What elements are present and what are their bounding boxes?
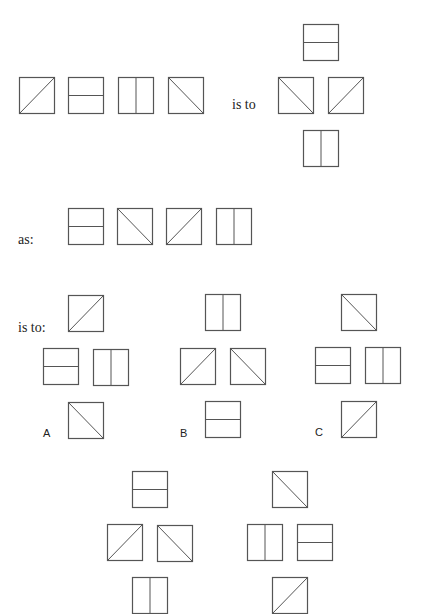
diag-up-square-icon — [180, 348, 216, 385]
option-c-tile-vertical — [365, 347, 401, 384]
horizontal-square-icon — [68, 208, 104, 245]
option-e-tile-horizontal — [297, 524, 333, 561]
option-c-tile-horizontal — [315, 347, 351, 384]
premise-cross-tile-horizontal — [303, 24, 339, 61]
premise-row-tile-vertical — [118, 77, 154, 114]
diag-up-square-icon — [19, 77, 55, 114]
option-b-tile-diag-down — [230, 348, 266, 385]
diag-up-square-icon — [272, 577, 308, 614]
option-b-tile-horizontal — [205, 401, 241, 438]
option-d-tile-diag-up — [107, 524, 143, 561]
horizontal-square-icon — [315, 347, 351, 384]
horizontal-square-icon — [68, 77, 104, 114]
premise-cross-tile-diag-up — [328, 77, 364, 114]
premise-row-tile-diag-up — [19, 77, 55, 114]
is-to-colon-label: is to: — [18, 321, 46, 335]
option-c-tile-diag-down — [341, 294, 377, 331]
horizontal-square-icon — [132, 471, 168, 508]
diag-up-square-icon — [107, 524, 143, 561]
vertical-square-icon — [205, 294, 241, 331]
option-b-label[interactable]: B — [180, 428, 187, 439]
option-d-tile-vertical — [132, 577, 168, 614]
option-d-tile-diag-down — [157, 525, 193, 562]
option-d-tile-horizontal — [132, 471, 168, 508]
option-e-tile-vertical — [247, 524, 283, 561]
as-label: as: — [18, 233, 34, 247]
horizontal-square-icon — [303, 24, 339, 61]
vertical-square-icon — [118, 77, 154, 114]
vertical-square-icon — [247, 524, 283, 561]
vertical-square-icon — [132, 577, 168, 614]
horizontal-square-icon — [43, 348, 79, 385]
query-row-tile-diag-down — [117, 208, 153, 245]
option-b-tile-diag-up — [180, 348, 216, 385]
vertical-square-icon — [365, 347, 401, 384]
diag-down-square-icon — [68, 402, 104, 439]
is-to-label: is to — [232, 98, 256, 112]
premise-row-tile-diag-down — [168, 77, 204, 114]
query-row-tile-diag-up — [166, 208, 202, 245]
diag-up-square-icon — [166, 208, 202, 245]
horizontal-square-icon — [297, 524, 333, 561]
option-c-tile-diag-up — [341, 401, 377, 438]
query-row-tile-horizontal — [68, 208, 104, 245]
diag-down-square-icon — [117, 208, 153, 245]
diag-up-square-icon — [68, 295, 104, 332]
diag-down-square-icon — [278, 77, 314, 114]
diag-up-square-icon — [328, 77, 364, 114]
option-a-label[interactable]: A — [43, 428, 50, 439]
option-e-tile-diag-down — [272, 471, 308, 508]
option-a-tile-diag-up — [68, 295, 104, 332]
premise-cross-tile-diag-down — [278, 77, 314, 114]
query-row-tile-vertical — [216, 208, 252, 245]
vertical-square-icon — [216, 208, 252, 245]
option-a-tile-diag-down — [68, 402, 104, 439]
premise-row-tile-horizontal — [68, 77, 104, 114]
diag-down-square-icon — [272, 471, 308, 508]
vertical-square-icon — [93, 349, 129, 386]
option-e-tile-diag-up — [272, 577, 308, 614]
option-c-label[interactable]: C — [315, 427, 323, 438]
option-a-tile-horizontal — [43, 348, 79, 385]
premise-cross-tile-vertical — [303, 130, 339, 167]
option-a-tile-vertical — [93, 349, 129, 386]
option-b-tile-vertical — [205, 294, 241, 331]
horizontal-square-icon — [205, 401, 241, 438]
diag-down-square-icon — [230, 348, 266, 385]
diag-down-square-icon — [157, 525, 193, 562]
vertical-square-icon — [303, 130, 339, 167]
diag-down-square-icon — [341, 294, 377, 331]
diag-up-square-icon — [341, 401, 377, 438]
diag-down-square-icon — [168, 77, 204, 114]
